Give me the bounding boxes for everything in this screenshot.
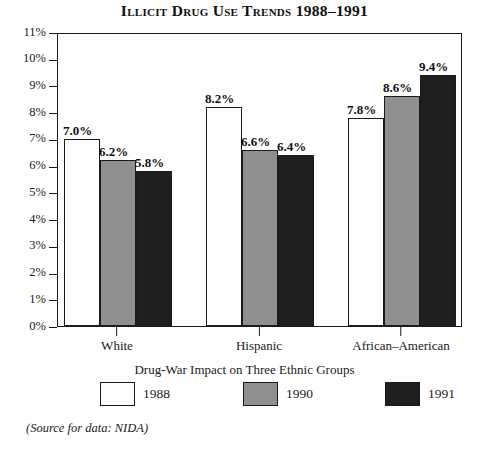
legend-label: 1988 [143, 386, 170, 402]
bar-group: 8.2%6.6%6.4% [206, 34, 314, 326]
bar: 7.8% [348, 118, 384, 326]
y-axis-tick-mark [49, 167, 57, 168]
y-axis-tick-mark [49, 220, 57, 221]
bar-value-label: 6.2% [99, 144, 128, 160]
y-axis-tick-mark [49, 140, 57, 141]
y-axis-tick-mark [49, 274, 57, 275]
y-axis-tick-label: 4% [29, 212, 46, 227]
bar-group: 7.8%8.6%9.4% [348, 34, 456, 326]
legend-item: 1988 [100, 382, 170, 406]
x-axis: WhiteHispanicAfrican–American [57, 327, 462, 357]
x-axis-tick-label: White [101, 338, 133, 354]
legend-swatch [243, 382, 278, 406]
bar-value-label: 7.8% [347, 102, 376, 118]
y-axis: 11%10%9%8%7%6%5%4%3%2%1%0% [0, 33, 57, 327]
y-axis-tick-mark [49, 247, 57, 248]
y-axis-tick-label: 0% [29, 319, 46, 334]
y-axis-tick-mark [49, 86, 57, 87]
bar: 6.6% [242, 150, 278, 326]
chart-title: Illicit Drug Use Trends 1988–1991 [0, 2, 489, 20]
bar: 8.2% [206, 107, 242, 326]
y-axis-tick-mark [49, 113, 57, 114]
y-axis-tick-mark [49, 193, 57, 194]
y-axis-tick-label: 5% [29, 185, 46, 200]
chart-legend: 198819901991 [0, 382, 489, 410]
legend-swatch [100, 382, 135, 406]
bar: 9.4% [420, 75, 456, 326]
legend-title: Drug-War Impact on Three Ethnic Groups [0, 362, 489, 378]
bar: 8.6% [384, 96, 420, 326]
legend-item: 1990 [243, 382, 313, 406]
bar-value-label: 6.6% [241, 134, 270, 150]
y-axis-tick-label: 3% [29, 238, 46, 253]
x-axis-group: Hispanic [236, 327, 282, 354]
legend-item: 1991 [385, 382, 455, 406]
bar-value-label: 5.8% [135, 155, 164, 171]
bar-value-label: 7.0% [63, 123, 92, 139]
y-axis-tick-label: 2% [29, 265, 46, 280]
x-axis-tick-mark [400, 327, 401, 336]
y-axis-tick-label: 6% [29, 158, 46, 173]
x-axis-tick-label: African–American [352, 338, 449, 354]
bar-group: 7.0%6.2%5.8% [64, 34, 172, 326]
x-axis-tick-label: Hispanic [236, 338, 282, 354]
source-note: (Source for data: NIDA) [26, 421, 148, 436]
legend-swatch [385, 382, 420, 406]
bar-value-label: 9.4% [419, 59, 448, 75]
bar-value-label: 8.6% [383, 80, 412, 96]
bar-value-label: 8.2% [205, 91, 234, 107]
x-axis-tick-mark [116, 327, 117, 336]
x-axis-group: White [101, 327, 133, 354]
bar: 7.0% [64, 139, 100, 326]
y-axis-tick-label: 1% [29, 292, 46, 307]
bar: 6.4% [278, 155, 314, 326]
y-axis-tick-label: 10% [23, 51, 46, 66]
y-axis-tick-mark [49, 327, 57, 328]
bar: 6.2% [100, 160, 136, 326]
y-axis-tick-label: 8% [29, 105, 46, 120]
bar-value-label: 6.4% [277, 139, 306, 155]
y-axis-tick-mark [49, 33, 57, 34]
bar: 5.8% [136, 171, 172, 326]
y-axis-tick-label: 9% [29, 78, 46, 93]
legend-label: 1990 [286, 386, 313, 402]
x-axis-group: African–American [352, 327, 449, 354]
y-axis-tick-label: 11% [24, 25, 46, 40]
y-axis-tick-label: 7% [29, 131, 46, 146]
plot-area: 7.0%6.2%5.8%8.2%6.6%6.4%7.8%8.6%9.4% [57, 33, 462, 327]
y-axis-tick-mark [49, 60, 57, 61]
legend-label: 1991 [428, 386, 455, 402]
y-axis-tick-mark [49, 300, 57, 301]
x-axis-tick-mark [259, 327, 260, 336]
